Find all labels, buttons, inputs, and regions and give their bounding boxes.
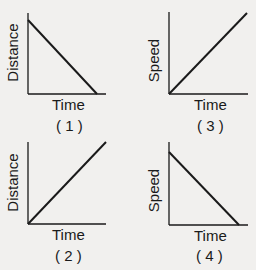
graph-3-ylabel: Speed [145,36,162,86]
graph-4-xlabel: Time [194,227,227,244]
graph-4-ylabel: Speed [145,166,162,216]
graph-4-axes [169,142,248,225]
graph-4-line [169,152,239,225]
graph-1-xlabel: Time [52,96,85,113]
graph-3-xlabel: Time [194,96,227,113]
graph-2-xlabel: Time [52,226,85,243]
graph-2-line [28,142,106,224]
graph-2-caption: ( 2 ) [55,247,82,264]
graph-1-line [28,20,97,94]
graph-3-caption: ( 3 ) [197,117,224,134]
graph-1-axes [28,13,106,94]
graph-1-caption: ( 1 ) [56,117,83,134]
graph-3-line [169,13,247,94]
graph-4-caption: ( 4 ) [196,247,223,264]
graph-2-ylabel: Distance [4,153,21,213]
graph-1-ylabel: Distance [4,23,21,83]
